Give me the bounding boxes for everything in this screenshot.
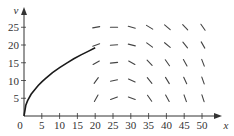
slope-segment — [147, 78, 152, 84]
slope-segment — [183, 25, 188, 30]
slope-field — [93, 24, 205, 101]
slope-segment — [166, 77, 170, 83]
slope-segment — [94, 95, 98, 101]
slope-segment — [201, 42, 205, 48]
y-axis-arrow-icon — [21, 7, 27, 15]
slope-segment — [93, 27, 100, 28]
slope-segment — [166, 95, 170, 101]
solution-curve — [24, 48, 95, 116]
slope-segment — [93, 61, 99, 65]
slope-segment — [147, 43, 153, 47]
x-tick-label: 20 — [90, 119, 102, 131]
slope-segment — [201, 24, 205, 30]
slope-segment — [165, 60, 169, 66]
x-axis-label: x — [223, 119, 229, 131]
y-tick-label: 20 — [8, 39, 20, 51]
slope-segment — [183, 42, 188, 48]
y-tick-label: 25 — [8, 21, 20, 33]
slope-segment — [129, 79, 136, 82]
slope-segment — [94, 78, 98, 84]
tick-labels: 05101520253035404550510152025xv — [8, 4, 229, 131]
slope-segment — [93, 44, 100, 46]
y-axis-label: v — [14, 4, 19, 16]
x-tick-label: 45 — [179, 119, 191, 131]
x-tick-label: 15 — [72, 119, 84, 131]
slope-field-chart: 05101520253035404550510152025xv — [0, 0, 234, 136]
x-tick-label: 30 — [125, 119, 137, 131]
slope-segment — [183, 60, 187, 66]
slope-segment — [165, 43, 171, 48]
x-tick-label: 5 — [39, 119, 45, 131]
x-tick-label: 0 — [17, 119, 23, 131]
y-tick-label: 10 — [8, 75, 20, 87]
y-tick-label: 15 — [8, 57, 20, 69]
y-tick-label: 5 — [14, 92, 20, 104]
slope-segment — [184, 95, 186, 102]
slope-segment — [128, 97, 135, 100]
slope-segment — [202, 77, 204, 84]
slope-segment — [165, 25, 171, 30]
slope-segment — [128, 44, 135, 46]
slope-segment — [147, 25, 153, 29]
slope-segment — [111, 80, 118, 81]
slope-segment — [202, 59, 205, 66]
x-axis-arrow-icon — [214, 113, 222, 119]
slope-segment — [148, 95, 152, 101]
slope-segment — [110, 62, 117, 63]
x-tick-label: 50 — [197, 119, 209, 131]
x-tick-label: 10 — [54, 119, 66, 131]
slope-segment — [184, 77, 187, 84]
slope-segment — [128, 26, 135, 28]
slope-segment — [147, 60, 152, 65]
x-tick-label: 40 — [161, 119, 173, 131]
slope-segment — [202, 95, 204, 102]
x-tick-label: 35 — [143, 119, 155, 131]
slope-segment — [129, 61, 135, 65]
axes — [21, 7, 222, 119]
slope-segment — [111, 97, 118, 100]
x-tick-label: 25 — [108, 119, 120, 131]
